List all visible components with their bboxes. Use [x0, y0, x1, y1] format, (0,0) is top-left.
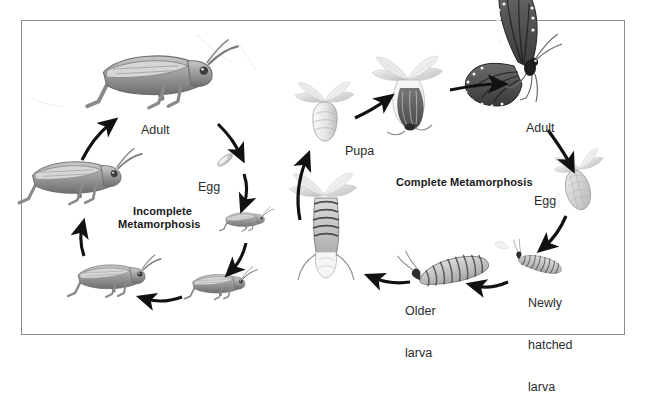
label-older-line2: larva: [405, 346, 436, 360]
label-complete-pupa: Pupa: [345, 145, 374, 159]
label-older-line1: Older: [405, 304, 436, 318]
stage-art-complete-emerging-adult: [372, 56, 443, 134]
complete-cycle-art: [290, 0, 605, 295]
label-complete-newly-hatched-larva: Newly hatched larva: [528, 268, 572, 395]
heading-incomplete-metamorphosis-line2: Metamorphosis: [118, 219, 201, 231]
label-newly-line2: hatched: [528, 338, 572, 352]
label-complete-adult: Adult: [526, 122, 555, 136]
label-complete-older-larva: Older larva: [405, 276, 436, 388]
label-complete-egg: Egg: [534, 195, 556, 209]
stage-art-incomplete-nymph-1: [220, 207, 274, 231]
heading-incomplete-metamorphosis-line1: Incomplete: [133, 206, 192, 218]
incomplete-cycle-art: [19, 40, 274, 301]
stage-art-complete-egg: [551, 148, 604, 213]
stage-art-complete-pupa: [295, 82, 354, 141]
label-newly-line3: larva: [528, 380, 572, 394]
stage-art-incomplete-nymph-4: [19, 149, 142, 204]
stage-art-incomplete-egg: [216, 152, 234, 168]
label-incomplete-egg: Egg: [198, 181, 220, 195]
stage-art-incomplete-nymph-3: [68, 255, 161, 297]
heading-complete-metamorphosis: Complete Metamorphosis: [396, 177, 533, 189]
stage-art-complete-adult: [465, 0, 563, 108]
stage-art-incomplete-nymph-2: [185, 267, 258, 300]
label-incomplete-adult: Adult: [141, 124, 170, 138]
stage-art-incomplete-adult: [87, 40, 238, 108]
label-newly-line1: Newly: [528, 296, 572, 310]
